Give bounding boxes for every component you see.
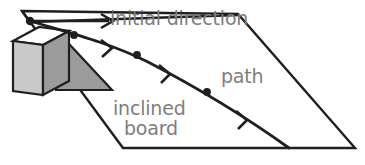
diagram-canvas: initial direction path inclinedboard <box>0 0 365 165</box>
label-inclined-board-line1: inclined <box>113 97 186 119</box>
path-dot-start <box>26 17 34 25</box>
label-inclined-board: inclinedboard <box>113 99 186 139</box>
label-path: path <box>221 67 263 87</box>
path-dot-2 <box>133 51 141 59</box>
path-dot-1 <box>70 31 78 39</box>
path-dot-3 <box>203 88 211 96</box>
label-inclined-board-line2: board <box>124 119 186 139</box>
label-initial-direction: initial direction <box>110 9 248 29</box>
block-left-face <box>13 41 43 95</box>
